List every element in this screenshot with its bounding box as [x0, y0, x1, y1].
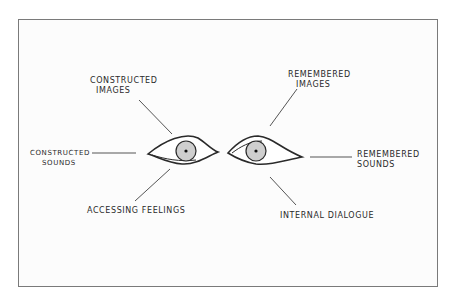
label-remembered-sounds: Remembered Sounds [357, 150, 420, 170]
line-remembered-images [270, 89, 297, 126]
label-line-1: Constructed [90, 76, 158, 86]
label-line-2: Images [90, 86, 158, 96]
right-eye-icon [228, 136, 302, 164]
label-line-2: Images [288, 80, 351, 90]
label-accessing-feelings: Accessing Feelings [87, 206, 185, 216]
label-remembered-images: Remembered Images [288, 70, 351, 90]
line-accessing-feelings [135, 169, 170, 201]
label-line-2: Sounds [30, 158, 90, 168]
label-line-2: Sounds [357, 160, 420, 170]
label-line-1: Remembered [288, 70, 351, 80]
label-internal-dialogue: Internal Dialogue [280, 211, 374, 221]
label-line-1: Remembered [357, 150, 420, 160]
line-internal-dialogue [270, 177, 296, 205]
label-line-1: Constructed [30, 148, 90, 158]
label-constructed-sounds: Constructed Sounds [30, 148, 90, 168]
label-constructed-images: Constructed Images [90, 76, 158, 96]
line-constructed-images [139, 100, 172, 134]
left-eye-icon [148, 136, 218, 164]
